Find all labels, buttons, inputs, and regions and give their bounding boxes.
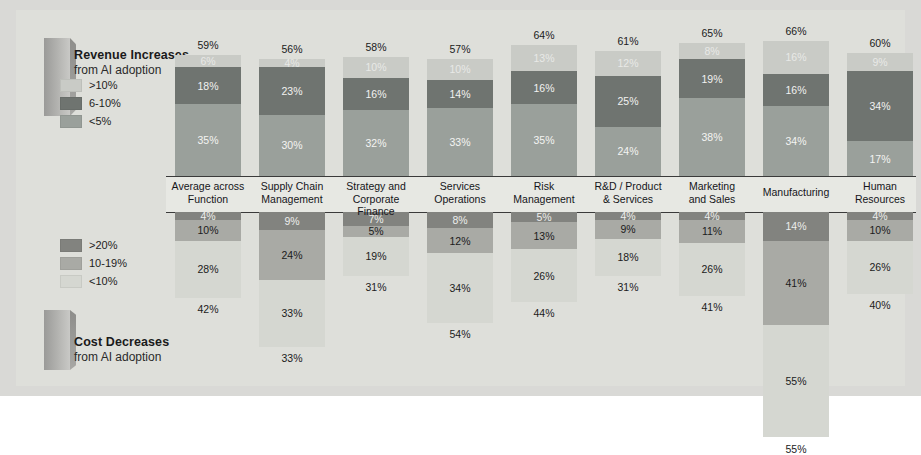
- revenue-bar[interactable]: 16%16%34%: [763, 41, 829, 176]
- revenue-bar-segment[interactable]: 24%: [595, 127, 661, 176]
- cost-bar-segment[interactable]: 26%: [679, 243, 745, 296]
- revenue-bar-segment[interactable]: 16%: [343, 78, 409, 111]
- cost-bar-segment[interactable]: 4%: [847, 212, 913, 220]
- revenue-bar-segment[interactable]: 38%: [679, 98, 745, 176]
- cost-total-label: 31%: [586, 281, 670, 293]
- cost-legend-item: <10%: [60, 274, 127, 288]
- category-label-line: Marketing: [670, 180, 754, 193]
- revenue-bar-segment[interactable]: 10%: [427, 59, 493, 80]
- cost-bar-segment[interactable]: 8%: [427, 212, 493, 228]
- segment-value-label: 41%: [785, 277, 806, 289]
- cost-bar[interactable]: 7%5%19%: [343, 212, 409, 276]
- category-label-line: & Services: [586, 193, 670, 206]
- revenue-bar-segment[interactable]: 35%: [511, 104, 577, 176]
- cost-bar[interactable]: 5%13%26%: [511, 212, 577, 302]
- category-label-line: Resources: [838, 193, 921, 206]
- cost-bar-segment[interactable]: 4%: [595, 212, 661, 220]
- segment-value-label: 19%: [701, 73, 722, 85]
- revenue-bar-segment[interactable]: 23%: [259, 67, 325, 114]
- cost-total-label: 42%: [166, 303, 250, 315]
- revenue-bar-segment[interactable]: 8%: [679, 43, 745, 59]
- cost-bar[interactable]: 4%9%18%: [595, 212, 661, 276]
- segment-value-label: 34%: [449, 282, 470, 294]
- category-label-line: Strategy and: [334, 180, 418, 193]
- revenue-bar[interactable]: 10%14%33%: [427, 59, 493, 176]
- cost-bar-segment[interactable]: 33%: [259, 280, 325, 348]
- cost-bar[interactable]: 4%11%26%: [679, 212, 745, 296]
- revenue-bar[interactable]: 6%18%35%: [175, 55, 241, 176]
- revenue-bar[interactable]: 12%25%24%: [595, 51, 661, 176]
- cost-bar-segment[interactable]: 9%: [595, 220, 661, 238]
- cost-bar-segment[interactable]: 4%: [679, 212, 745, 220]
- segment-value-label: 9%: [284, 215, 299, 227]
- revenue-bar[interactable]: 10%16%32%: [343, 57, 409, 176]
- cost-bar-segment[interactable]: 26%: [511, 249, 577, 302]
- segment-value-label: 26%: [869, 261, 890, 273]
- revenue-bar[interactable]: 8%19%38%: [679, 43, 745, 176]
- cost-total-label: 33%: [250, 352, 334, 364]
- revenue-bar-segment[interactable]: 34%: [847, 71, 913, 141]
- revenue-bar-segment[interactable]: 19%: [679, 59, 745, 98]
- cost-legend-item: >20%: [60, 238, 127, 252]
- cost-bar-segment[interactable]: 5%: [511, 212, 577, 222]
- legend-swatch-icon: [60, 275, 82, 288]
- revenue-bar[interactable]: 9%34%17%: [847, 53, 913, 176]
- cost-bar-segment[interactable]: 24%: [259, 230, 325, 279]
- segment-value-label: 19%: [365, 250, 386, 262]
- cost-subtitle: from AI adoption: [74, 350, 169, 365]
- cost-total-label: 44%: [502, 307, 586, 319]
- cost-bar-segment[interactable]: 9%: [259, 212, 325, 230]
- category-label: Marketingand Sales: [670, 180, 754, 205]
- cost-bar[interactable]: 8%12%34%: [427, 212, 493, 323]
- revenue-bar-segment[interactable]: 14%: [427, 80, 493, 109]
- revenue-bar-segment[interactable]: 16%: [511, 71, 577, 104]
- cost-bar-segment[interactable]: 19%: [343, 237, 409, 276]
- revenue-total-label: 66%: [754, 25, 838, 37]
- revenue-bar-segment[interactable]: 10%: [343, 57, 409, 78]
- revenue-bar[interactable]: 4%23%30%: [259, 59, 325, 176]
- segment-value-label: 30%: [281, 139, 302, 151]
- revenue-bar-segment[interactable]: 16%: [763, 41, 829, 74]
- cost-bar-segment[interactable]: 34%: [427, 253, 493, 323]
- revenue-bar-segment[interactable]: 32%: [343, 110, 409, 176]
- revenue-bar-segment[interactable]: 17%: [847, 141, 913, 176]
- revenue-total-label: 65%: [670, 27, 754, 39]
- revenue-bar[interactable]: 13%16%35%: [511, 45, 577, 176]
- cost-bar-segment[interactable]: 5%: [343, 226, 409, 236]
- cost-bar-segment[interactable]: 55%: [763, 325, 829, 438]
- cost-bar-segment[interactable]: 41%: [763, 241, 829, 325]
- cost-bar-segment[interactable]: 10%: [175, 220, 241, 241]
- segment-value-label: 13%: [533, 52, 554, 64]
- revenue-bar-segment[interactable]: 13%: [511, 45, 577, 72]
- segment-value-label: 28%: [197, 263, 218, 275]
- cost-bar[interactable]: 9%24%33%: [259, 212, 325, 347]
- cost-bar-segment[interactable]: 18%: [595, 239, 661, 276]
- cost-bar-segment[interactable]: 26%: [847, 241, 913, 294]
- revenue-bar-segment[interactable]: 16%: [763, 74, 829, 107]
- revenue-bar-segment[interactable]: 25%: [595, 76, 661, 127]
- cost-bar-segment[interactable]: 13%: [511, 222, 577, 249]
- revenue-bar-segment[interactable]: 35%: [175, 104, 241, 176]
- revenue-bar-segment[interactable]: 9%: [847, 53, 913, 71]
- cost-bar[interactable]: 4%10%28%: [175, 212, 241, 298]
- revenue-bar-segment[interactable]: 33%: [427, 108, 493, 176]
- cost-bar[interactable]: 14%41%55%: [763, 212, 829, 437]
- segment-value-label: 33%: [449, 136, 470, 148]
- revenue-bar-segment[interactable]: 6%: [175, 55, 241, 67]
- cost-bar[interactable]: 4%10%26%: [847, 212, 913, 294]
- revenue-bar-segment[interactable]: 30%: [259, 115, 325, 177]
- cost-bar-segment[interactable]: 12%: [427, 228, 493, 253]
- revenue-total-label: 57%: [418, 43, 502, 55]
- cost-bar-segment[interactable]: 10%: [847, 220, 913, 241]
- category-label: Supply ChainManagement: [250, 180, 334, 205]
- revenue-bar-segment[interactable]: 18%: [175, 67, 241, 104]
- cost-bar-segment[interactable]: 14%: [763, 212, 829, 241]
- cost-bar-segment[interactable]: 4%: [175, 212, 241, 220]
- segment-value-label: 18%: [617, 251, 638, 263]
- cost-bar-segment[interactable]: 11%: [679, 220, 745, 243]
- legend-label: >10%: [89, 80, 117, 91]
- revenue-bar-segment[interactable]: 12%: [595, 51, 661, 76]
- revenue-bar-segment[interactable]: 34%: [763, 106, 829, 176]
- cost-bar-segment[interactable]: 28%: [175, 241, 241, 298]
- revenue-bar-segment[interactable]: 4%: [259, 59, 325, 67]
